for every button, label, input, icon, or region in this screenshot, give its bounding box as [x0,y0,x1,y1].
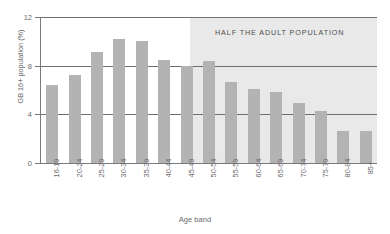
bar [69,75,81,163]
bar [203,61,215,163]
x-label-cell: 70-74 [287,166,309,210]
x-tick-label: 50-54 [209,159,218,178]
bar-cell [198,17,220,163]
bar [315,111,327,163]
bar [91,52,103,163]
x-tick-label: 45-49 [187,159,196,178]
x-tick-label: 16-19 [52,159,61,178]
bar-chart: HALF THE ADULT POPULATION 12 8 4 0 GB 16… [0,0,390,234]
bar-cell [41,17,63,163]
x-label-cell: 65-69 [265,166,287,210]
bar [181,66,193,163]
x-label-cell: 40-44 [153,166,175,210]
x-label-cell: 50-54 [198,166,220,210]
x-axis-title: Age band [0,215,390,224]
bar-cell [332,17,354,163]
bar-cell [108,17,130,163]
x-tick-label: 30-34 [119,159,128,178]
bar-cell [175,17,197,163]
bar-cell [310,17,332,163]
bar [293,103,305,163]
bar [225,82,237,164]
bar-cell [63,17,85,163]
x-label-cell: 30-34 [108,166,130,210]
bar [248,89,260,163]
bar [270,92,282,163]
bar-cell [287,17,309,163]
x-label-cell: 60-64 [243,166,265,210]
bar-cell [265,17,287,163]
x-label-cell: 35-39 [131,166,153,210]
x-label-cell: 85+ [355,166,377,210]
y-tick-0 [35,163,41,164]
x-label-cell: 45-49 [175,166,197,210]
bar-cell [131,17,153,163]
x-axis-labels: 16-1920-2425-2930-3435-3940-4445-4950-54… [41,166,377,210]
bar-cell [220,17,242,163]
bar-cell [355,17,377,163]
bar [113,39,125,163]
bar [158,60,170,163]
y-tick-label-0: 0 [0,159,32,168]
x-tick-label: 20-24 [75,159,84,178]
x-label-cell: 55-59 [220,166,242,210]
bar-cell [86,17,108,163]
y-axis-title: GB 16+ population (%) [16,0,25,137]
x-tick-label: 55-59 [231,159,240,178]
x-tick-label: 40-44 [164,159,173,178]
bar [360,131,372,163]
x-tick-label: 25-29 [97,159,106,178]
x-tick-label: 65-69 [276,159,285,178]
x-tick-label: 60-64 [254,159,263,178]
x-tick-label: 70-74 [299,159,308,178]
x-tick-label: 85+ [366,162,375,175]
x-label-cell: 16-19 [41,166,63,210]
bar-cell [153,17,175,163]
bar-series [41,17,377,163]
bar [136,41,148,163]
x-tick-label: 35-39 [142,159,151,178]
x-label-cell: 75-79 [310,166,332,210]
x-label-cell: 20-24 [63,166,85,210]
bar [46,85,58,163]
x-tick-label: 80-84 [343,159,352,178]
x-label-cell: 80-84 [332,166,354,210]
x-tick-label: 75-79 [321,159,330,178]
x-label-cell: 25-29 [86,166,108,210]
bar-cell [243,17,265,163]
